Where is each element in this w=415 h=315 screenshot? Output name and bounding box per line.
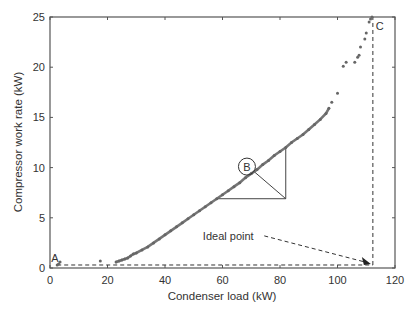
label-b: B: [243, 161, 250, 173]
label-c: C: [376, 20, 384, 32]
y-tick-label: 5: [39, 212, 45, 224]
data-point: [244, 176, 247, 179]
data-point: [135, 251, 138, 254]
data-point: [353, 61, 356, 64]
data-point: [358, 54, 361, 57]
x-tick-label: 80: [274, 274, 286, 286]
data-point: [302, 133, 305, 136]
y-tick-label: 10: [33, 162, 45, 174]
data-point: [319, 118, 322, 121]
tick-labels: 0204060801001200510152025: [33, 11, 404, 286]
y-tick-label: 25: [33, 11, 45, 23]
data-point: [123, 257, 126, 260]
data-point: [132, 252, 135, 255]
data-point: [371, 16, 374, 19]
x-tick-label: 60: [216, 274, 228, 286]
data-point: [169, 229, 172, 232]
data-point: [152, 241, 155, 244]
data-point: [290, 141, 293, 144]
data-point: [129, 254, 132, 257]
data-point: [336, 92, 339, 95]
y-tick-label: 0: [39, 262, 45, 274]
data-point: [158, 237, 161, 240]
data-point: [141, 248, 144, 251]
data-point: [261, 163, 264, 166]
data-point: [363, 38, 366, 41]
data-point: [365, 32, 368, 35]
data-point: [146, 245, 149, 248]
data-point: [273, 154, 276, 157]
data-point: [192, 213, 195, 216]
guide-lines: [57, 17, 373, 265]
data-point: [313, 123, 316, 126]
chart: 0204060801001200510152025 ABCIdeal point…: [0, 0, 415, 315]
data-point: [307, 128, 310, 131]
data-point: [342, 65, 345, 68]
y-tick-label: 15: [33, 111, 45, 123]
data-point: [227, 189, 230, 192]
data-point: [59, 260, 62, 263]
y-axis-label: Compressor work rate (kW): [12, 72, 24, 213]
ideal-point-arrowhead-icon: [362, 257, 371, 265]
data-point: [120, 258, 123, 261]
data-point: [99, 259, 102, 262]
data-point: [330, 101, 333, 104]
x-tick-label: 40: [159, 274, 171, 286]
data-point: [327, 107, 330, 110]
y-tick-label: 20: [33, 61, 45, 73]
data-point: [164, 233, 167, 236]
annotations: ABCIdeal point: [51, 20, 384, 265]
data-point: [118, 259, 121, 262]
data-point: [345, 61, 348, 64]
data-point: [221, 193, 224, 196]
data-point: [267, 159, 270, 162]
data-point: [325, 112, 328, 115]
data-point: [359, 46, 362, 49]
data-point: [198, 209, 201, 212]
data-point: [181, 221, 184, 224]
data-point: [126, 256, 129, 259]
x-tick-label: 0: [47, 274, 53, 286]
data-point: [175, 225, 178, 228]
label-a: A: [51, 252, 59, 264]
x-tick-label: 120: [386, 274, 404, 286]
data-point: [238, 181, 241, 184]
data-point: [279, 150, 282, 153]
data-point: [187, 217, 190, 220]
data-point: [204, 205, 207, 208]
data-point: [296, 137, 299, 140]
data-points: [56, 16, 374, 267]
data-point: [233, 185, 236, 188]
x-tick-label: 20: [101, 274, 113, 286]
label-ideal-point: Ideal point: [203, 230, 254, 242]
ideal-point-arrow-line: [264, 236, 365, 262]
data-point: [210, 201, 213, 204]
data-point: [284, 146, 287, 149]
x-tick-label: 100: [328, 274, 346, 286]
data-point: [368, 21, 371, 24]
data-point: [256, 168, 259, 171]
data-point: [115, 260, 118, 263]
x-axis-label: Condenser load (kW): [168, 290, 277, 302]
triangle-hypotenuse: [254, 172, 286, 199]
data-point: [215, 197, 218, 200]
